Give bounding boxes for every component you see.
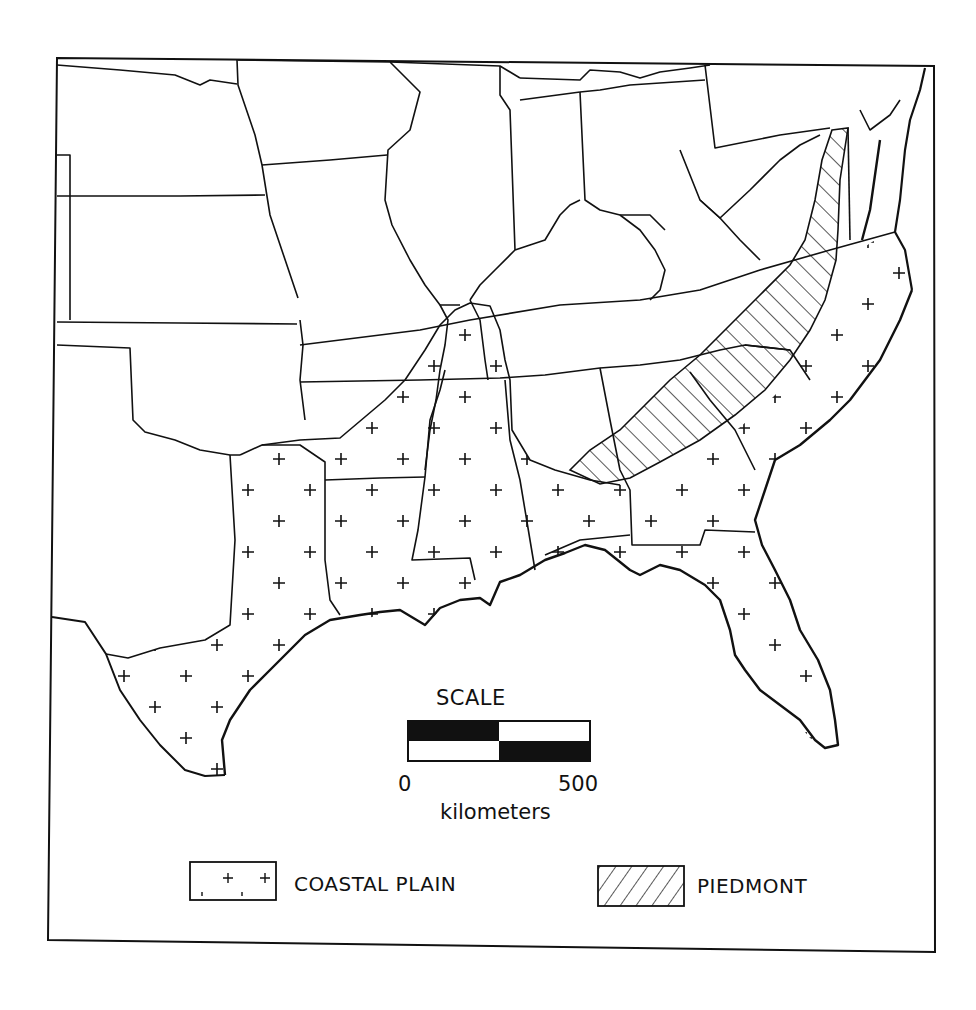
- scale-max-label: 500: [558, 772, 598, 796]
- scale-unit-label: kilometers: [440, 800, 551, 824]
- scale-title: SCALE: [436, 686, 506, 710]
- legend-swatch-coastal-plain: [190, 862, 276, 900]
- scale-min-label: 0: [398, 772, 411, 796]
- legend-label-piedmont: PIEDMONT: [697, 874, 807, 898]
- scale-bar: [408, 721, 590, 761]
- legend-label-coastal-plain: COASTAL PLAIN: [294, 872, 456, 896]
- map-figure: [0, 0, 976, 1010]
- legend-swatch-piedmont: [598, 866, 684, 906]
